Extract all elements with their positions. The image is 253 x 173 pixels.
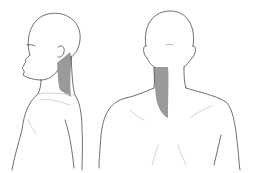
shaded-pain-area-posterior [154, 67, 168, 118]
head-lower-right [184, 58, 192, 67]
posterior-view [99, 11, 240, 170]
hairline-mark [166, 44, 173, 45]
face-profile [22, 55, 41, 80]
lateral-view [12, 13, 82, 170]
arm-line [65, 120, 74, 168]
left-ear-posterior [143, 46, 147, 58]
right-ear-posterior [192, 46, 196, 58]
arm-right [214, 135, 221, 165]
jaw-line [41, 70, 58, 80]
scapula-right [190, 106, 212, 118]
neck-back [71, 57, 82, 170]
left-back-edge [99, 98, 126, 168]
anatomy-figure [0, 0, 253, 173]
spine-lower-left [152, 145, 158, 165]
scapula-left [130, 110, 144, 120]
head-outline-lateral [28, 13, 80, 57]
shoulder-right [186, 88, 240, 170]
ear [58, 46, 64, 57]
shoulder-front [12, 94, 38, 170]
shaded-pain-area-lateral [57, 52, 72, 97]
neck-right [184, 67, 186, 88]
collarbone [40, 99, 70, 105]
illustration-canvas: Anatomical illustration of neck pain ref… [0, 0, 253, 173]
neck-front [38, 80, 41, 94]
head-outline-posterior [145, 11, 193, 46]
head-lower-left [147, 58, 154, 67]
spine-lower-right [178, 145, 186, 165]
shoulder-left [126, 88, 154, 98]
chest-line [28, 120, 36, 134]
